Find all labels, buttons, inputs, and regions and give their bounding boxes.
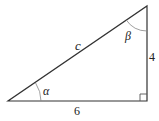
beta-angle-label: β [124, 29, 131, 43]
right-angle-marker [140, 94, 147, 101]
vertical-leg-label: 4 [149, 50, 155, 64]
right-triangle-diagram: c β α 4 6 [0, 0, 159, 121]
hypotenuse-label: c [75, 38, 81, 53]
horizontal-leg-label: 6 [74, 104, 80, 118]
alpha-angle-label: α [43, 84, 50, 98]
alpha-angle-arc [36, 83, 41, 101]
